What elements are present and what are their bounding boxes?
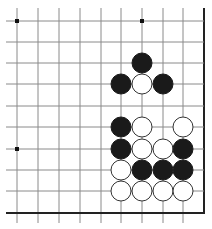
star-point: [140, 19, 144, 23]
go-board[interactable]: [0, 0, 212, 229]
star-point: [15, 19, 19, 23]
go-board-svg: [0, 0, 212, 229]
white-stone: [132, 117, 152, 137]
white-stone: [111, 160, 131, 180]
black-stone: [111, 139, 131, 159]
black-stone: [132, 53, 152, 73]
black-stone: [173, 139, 193, 159]
white-stone: [153, 139, 173, 159]
black-stone: [111, 117, 131, 137]
star-point: [15, 147, 19, 151]
white-stone: [111, 181, 131, 201]
black-stone: [111, 74, 131, 94]
white-stone: [132, 74, 152, 94]
white-stone: [153, 181, 173, 201]
white-stone: [132, 181, 152, 201]
black-stone: [153, 74, 173, 94]
black-stone: [153, 160, 173, 180]
black-stone: [132, 160, 152, 180]
stones: [111, 53, 193, 201]
black-stone: [173, 160, 193, 180]
white-stone: [132, 139, 152, 159]
white-stone: [173, 117, 193, 137]
white-stone: [173, 181, 193, 201]
